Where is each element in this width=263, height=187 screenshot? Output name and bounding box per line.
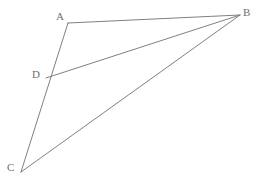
vertex-label-c: C — [7, 162, 14, 173]
geometry-figure: A B C D — [0, 0, 263, 187]
vertex-label-a: A — [56, 11, 64, 22]
vertex-label-d: D — [32, 69, 40, 80]
vertex-label-b: B — [243, 7, 250, 18]
geometry-canvas — [0, 0, 263, 187]
